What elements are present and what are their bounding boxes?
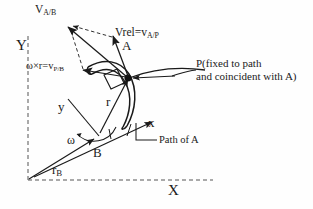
body-y-axis [68, 99, 99, 136]
label-omega-cross-r: ω×r=vP/B [26, 60, 64, 73]
construction-line-left [71, 31, 83, 69]
label-path-of-a: Path of A [159, 134, 199, 145]
slot-inner-curve [92, 70, 130, 127]
label-body-x-axis: x [148, 116, 155, 130]
label-global-x-axis: X [168, 182, 179, 198]
label-r-rel: r [106, 95, 110, 109]
label-p-note-line2: and coincident with A) [196, 70, 311, 83]
label-body-y-axis: y [58, 100, 65, 114]
label-v-a-over-b: VA/B [35, 3, 56, 17]
p-note-leader [172, 70, 196, 76]
label-point-a: A [122, 39, 131, 53]
kinematics-diagram: VA/B Vrel=vA/P ω×r=vP/B Y X A B P(fixed … [0, 0, 313, 209]
label-r-b: rB [52, 163, 62, 178]
p-note-leader-arrow [133, 76, 175, 78]
label-point-b: B [93, 146, 102, 160]
label-p-note-line1: P(fixed to path [196, 57, 311, 70]
label-global-y-axis: Y [16, 37, 27, 53]
label-omega: ω [67, 134, 75, 147]
construction-line-top [73, 26, 112, 37]
label-p-note: P(fixed to path and coincident with A) [196, 57, 311, 83]
